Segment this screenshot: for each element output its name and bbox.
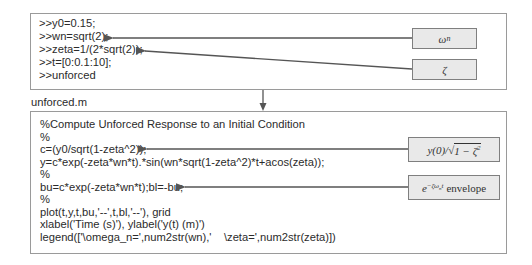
script-line-comment: % xyxy=(40,193,50,206)
envelope-annotation: e−ζωntenvelope xyxy=(408,175,500,200)
command-line-unforced: >>unforced xyxy=(39,69,96,82)
script-line-xlabel: xlabel('Time (s)'), ylabel('y(t) (m)') xyxy=(40,218,205,231)
down-arrow-head xyxy=(260,103,267,111)
command-line-wn: >>wn=sqrt(2); xyxy=(39,30,108,43)
command-line-y0: >>y0=0.15; xyxy=(39,17,95,30)
command-line-zeta: >>zeta=1/(2*sqrt(2)); xyxy=(39,43,143,56)
command-line-t: >>t=[0:0.1:10]; xyxy=(39,56,111,69)
script-filename: unforced.m xyxy=(31,96,87,108)
omega-n-annotation: ωn xyxy=(412,28,477,49)
c-formula-prefix: y(0)/ xyxy=(427,144,448,156)
omega-subscript: n xyxy=(446,34,450,43)
zeta-symbol: ζ xyxy=(442,64,446,76)
script-line-y: y=c*exp(-zeta*wn*t).*sin(wn*sqrt(1-zeta^… xyxy=(40,156,324,169)
script-line-plot: plot(t,y,t,bu,'--',t,bl,'--'), grid xyxy=(40,206,171,219)
script-line-legend: legend(['\omega_n=',num2str(wn),' \zeta=… xyxy=(40,231,336,244)
c-formula-radicand: 1 − ζ2 xyxy=(454,143,480,157)
zeta-annotation: ζ xyxy=(412,59,477,80)
c-formula-annotation: y(0)/√1 − ζ2 xyxy=(408,137,500,162)
script-line-bu: bu=c*exp(-zeta*wn*t);bl=-bu; xyxy=(40,181,183,194)
envelope-word: envelope xyxy=(446,182,486,194)
script-line-comment: % xyxy=(40,168,50,181)
envelope-exponent: −ζωnt xyxy=(427,182,444,191)
script-line-c: c=(y0/sqrt(1-zeta^2)); xyxy=(40,143,146,156)
omega-symbol: ω xyxy=(439,33,447,45)
script-line-comment-title: %Compute Unforced Response to an Initial… xyxy=(40,118,305,131)
script-line-comment: % xyxy=(40,131,50,144)
